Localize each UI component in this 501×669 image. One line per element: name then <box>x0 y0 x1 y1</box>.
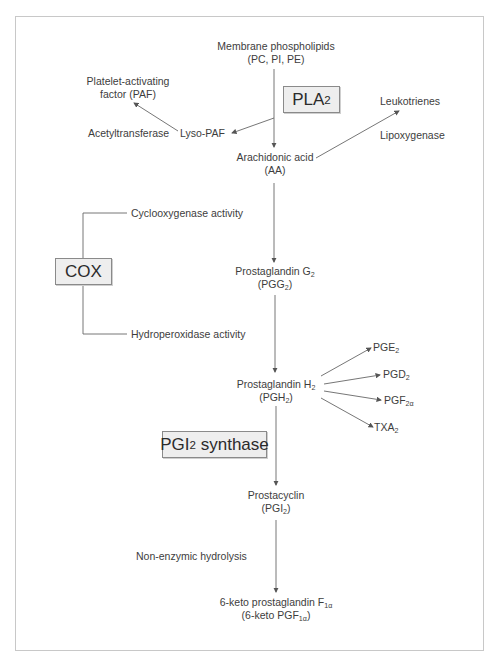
node-label: 6-keto prostaglandin F1α <box>208 596 344 609</box>
label-lipoxygenase: Lipoxygenase <box>380 129 445 142</box>
node-label: Prostaglandin G2 <box>228 265 322 278</box>
label-hydroperoxidase-activity: Hydroperoxidase activity <box>131 328 245 341</box>
node-txa2: TXA2 <box>374 421 398 434</box>
node-label: (6-keto PGF1α) <box>208 609 344 622</box>
label-cyclooxygenase-activity: Cyclooxygenase activity <box>131 207 243 220</box>
node-arachidonic-acid: Arachidonic acid (AA) <box>230 151 320 177</box>
node-pgd2: PGD2 <box>383 368 410 381</box>
node-pgh2: Prostaglandin H2 (PGH2) <box>229 378 323 404</box>
node-label: factor (PAF) <box>80 88 176 101</box>
node-label: Arachidonic acid <box>230 151 320 164</box>
node-pgg2: Prostaglandin G2 (PGG2) <box>228 265 322 291</box>
node-paf: Platelet-activating factor (PAF) <box>80 75 176 101</box>
node-leukotrienes: Leukotrienes <box>380 95 440 108</box>
node-label: Membrane phospholipids <box>214 40 338 53</box>
node-label: Prostaglandin H2 <box>229 378 323 391</box>
node-label: (PC, PI, PE) <box>214 53 338 66</box>
node-label: (PGI2) <box>236 502 316 515</box>
label-non-enzymic-hydrolysis: Non-enzymic hydrolysis <box>136 550 247 563</box>
node-label: (AA) <box>230 164 320 177</box>
box-label: PLA <box>292 90 324 110</box>
node-label: (PGG2) <box>228 278 322 291</box>
node-6-keto-pgf1a: 6-keto prostaglandin F1α (6-keto PGF1α) <box>208 596 344 622</box>
node-label: Platelet-activating <box>80 75 176 88</box>
node-lyso-paf: Lyso-PAF <box>180 127 225 140</box>
enzyme-box-pla2: PLA2 <box>283 86 340 113</box>
node-membrane-phospholipids: Membrane phospholipids (PC, PI, PE) <box>214 40 338 66</box>
node-prostacyclin: Prostacyclin (PGI2) <box>236 489 316 515</box>
box-label: synthase <box>196 435 269 455</box>
enzyme-box-cox: COX <box>55 258 112 285</box>
node-pge2: PGE2 <box>373 341 399 354</box>
node-label: Prostacyclin <box>236 489 316 502</box>
box-label: COX <box>65 262 102 282</box>
label-acetyltransferase: Acetyltransferase <box>88 127 169 140</box>
node-label: (PGH2) <box>229 391 323 404</box>
enzyme-box-pgi2-synthase: PGI2 synthase <box>162 431 267 458</box>
node-pgf2a: PGF2α <box>384 394 414 407</box>
box-label: PGI <box>160 435 189 455</box>
